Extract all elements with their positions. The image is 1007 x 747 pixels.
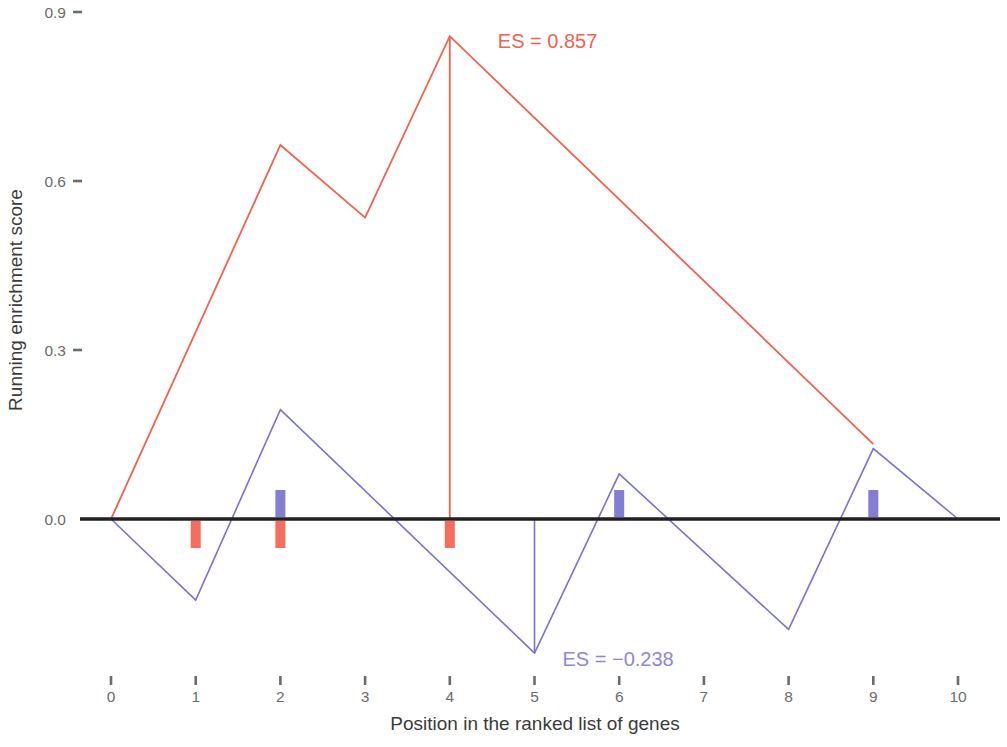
y-tick-label-1: 0.6 <box>44 173 66 190</box>
gene-hit-tick <box>445 521 455 548</box>
x-tick-label: 5 <box>530 688 539 705</box>
x-axis-title: Position in the ranked list of genes <box>390 713 679 734</box>
es-label-negative: ES = −0.238 <box>563 648 674 670</box>
gene-hit-tick <box>275 521 285 548</box>
x-tick-marks <box>111 676 958 685</box>
gsea-plot-figure: 0.9 0.6 0.3 0.0 Running enrichment score… <box>0 0 1007 747</box>
x-tick-label: 0 <box>107 688 116 705</box>
gene-hit-tick <box>868 490 878 517</box>
y-tick-marks <box>73 12 82 350</box>
y-tick-label-2: 0.3 <box>44 342 66 359</box>
x-tick-label: 7 <box>700 688 709 705</box>
x-tick-label: 2 <box>276 688 285 705</box>
enrichment-plot-canvas: 0.9 0.6 0.3 0.0 Running enrichment score… <box>0 0 1007 747</box>
x-tick-label: 10 <box>949 688 967 705</box>
y-tick-label-3: 0.0 <box>44 511 66 528</box>
x-tick-label: 8 <box>784 688 793 705</box>
gene-hit-tick <box>614 490 624 517</box>
x-tick-label: 6 <box>615 688 624 705</box>
gene-hit-tick <box>275 490 285 517</box>
x-tick-label: 1 <box>191 688 200 705</box>
x-axis: 012345678910 Position in the ranked list… <box>107 676 967 734</box>
y-tick-label-0: 0.9 <box>44 4 66 21</box>
y-axis: 0.9 0.6 0.3 0.0 Running enrichment score <box>5 4 82 528</box>
x-tick-label: 9 <box>869 688 878 705</box>
positive-enrichment-curve <box>111 36 873 519</box>
x-tick-label: 4 <box>445 688 454 705</box>
gene-hit-tick <box>191 521 201 548</box>
series-layer <box>111 36 958 653</box>
y-axis-title: Running enrichment score <box>5 189 26 411</box>
x-tick-label: 3 <box>361 688 370 705</box>
es-label-positive: ES = 0.857 <box>498 30 598 52</box>
x-tick-labels: 012345678910 <box>107 688 967 705</box>
